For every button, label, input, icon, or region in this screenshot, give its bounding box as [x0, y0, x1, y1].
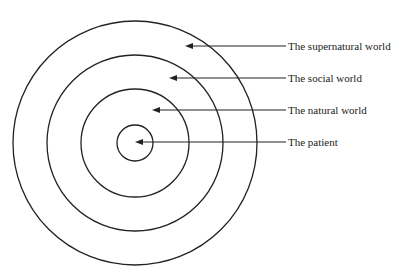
label-supernatural-world: The supernatural world [288, 40, 391, 52]
ring-social [47, 55, 223, 231]
arrow-natural [152, 107, 286, 113]
arrow-supernatural [185, 43, 286, 49]
ring-natural [81, 89, 189, 197]
label-social-world: The social world [288, 72, 362, 84]
ring-supernatural [13, 21, 257, 265]
label-natural-world: The natural world [288, 104, 367, 116]
ring-patient [117, 125, 153, 161]
arrow-patient [135, 139, 286, 145]
label-patient: The patient [288, 136, 338, 148]
arrow-social [169, 75, 286, 81]
